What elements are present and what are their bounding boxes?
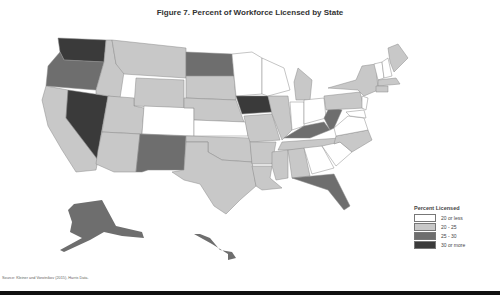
state-oh <box>304 98 326 124</box>
state-ms <box>272 150 288 180</box>
state-hi <box>194 234 236 260</box>
state-pa <box>324 92 364 110</box>
legend-title: Percent Licensed <box>414 205 465 211</box>
legend-label: 20 - 25 <box>441 224 457 230</box>
state-co <box>142 106 194 136</box>
state-fl <box>292 174 350 210</box>
legend: Percent Licensed 20 or less 20 - 25 25 -… <box>414 205 465 249</box>
legend-swatch <box>414 214 436 222</box>
legend-label: 30 or more <box>441 242 465 248</box>
state-ct <box>376 86 388 92</box>
state-nj <box>362 96 368 110</box>
state-in <box>290 102 304 130</box>
legend-swatch <box>414 241 436 249</box>
state-ak <box>60 200 144 252</box>
state-mi <box>294 68 312 100</box>
state-ny <box>328 64 378 96</box>
legend-item: 30 or more <box>414 240 465 249</box>
state-ia <box>236 96 272 114</box>
state-nd <box>186 52 234 76</box>
state-nm <box>136 134 186 172</box>
state-wi <box>262 58 290 96</box>
state-wy <box>134 78 184 108</box>
state-me <box>388 44 408 72</box>
us-choropleth-map <box>0 0 500 295</box>
legend-item: 20 - 25 <box>414 222 465 231</box>
state-wa <box>58 38 106 62</box>
legend-swatch <box>414 232 436 240</box>
legend-item: 20 or less <box>414 213 465 222</box>
bottom-border <box>0 291 500 295</box>
state-mn <box>232 52 262 96</box>
legend-item: 25 - 30 <box>414 231 465 240</box>
source-note: Source: Kleiner and Vorotnikov (2015), H… <box>2 276 89 280</box>
legend-label: 20 or less <box>441 215 463 221</box>
state-ma <box>378 78 400 86</box>
legend-label: 25 - 30 <box>441 233 457 239</box>
legend-swatch <box>414 223 436 231</box>
state-ks <box>194 120 248 136</box>
state-az <box>96 132 140 172</box>
state-sd <box>186 76 236 100</box>
state-mt <box>112 40 186 78</box>
